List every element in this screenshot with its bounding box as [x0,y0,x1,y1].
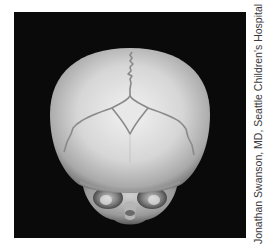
image-credit: Jonathan Swanson, MD, Seattle Children's… [252,4,264,244]
skull-ct-image [14,12,246,238]
skull-illustration [14,12,246,238]
